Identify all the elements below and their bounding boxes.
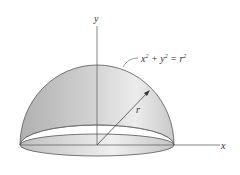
y-axis-label: y xyxy=(93,13,99,24)
x-axis-label: x xyxy=(220,140,226,151)
hemisphere-diagram: y x r x2 + y2 = r2 xyxy=(0,0,240,175)
equation-label: x2 + y2 = r2 xyxy=(140,53,186,64)
equation-leader xyxy=(123,58,138,67)
radius-label: r xyxy=(136,104,140,115)
